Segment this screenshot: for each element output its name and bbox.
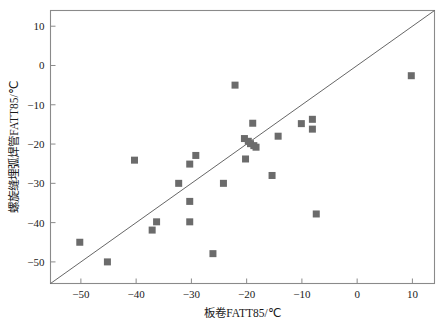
data-point <box>131 157 138 164</box>
data-point <box>186 161 193 168</box>
data-point <box>104 258 111 265</box>
data-point <box>249 120 256 127</box>
data-point <box>192 152 199 159</box>
data-point <box>309 126 316 133</box>
y-axis-tick-label: 10 <box>34 20 46 32</box>
data-point <box>275 133 282 140</box>
data-point <box>220 180 227 187</box>
y-axis-tick-label: 0 <box>39 59 45 71</box>
y-axis-title: 螺旋缝埋弧焊管FATT85/℃ <box>7 81 20 212</box>
data-point <box>408 72 415 79</box>
data-point <box>149 227 156 234</box>
data-point <box>232 82 239 89</box>
data-point <box>253 144 260 151</box>
y-axis-tick-label: −10 <box>27 99 45 111</box>
x-axis-tick-label: 0 <box>354 288 360 300</box>
x-axis-tick-label: −50 <box>72 288 90 300</box>
x-axis-tick-label: −10 <box>293 288 311 300</box>
y-axis-tick-label: −30 <box>27 177 45 189</box>
data-point <box>209 250 216 257</box>
data-point <box>309 116 316 123</box>
data-point <box>298 120 305 127</box>
data-point <box>186 198 193 205</box>
x-axis-tick-label: 10 <box>407 288 419 300</box>
x-axis-tick-label: −40 <box>128 288 146 300</box>
y-axis-tick-label: −50 <box>27 256 45 268</box>
data-point <box>313 210 320 217</box>
y-axis-tick-label: −20 <box>27 138 45 150</box>
data-point <box>76 239 83 246</box>
x-axis-tick-label: −30 <box>183 288 201 300</box>
data-point <box>242 155 249 162</box>
x-axis-tick-label: −20 <box>238 288 256 300</box>
reference-line-y-equals-x <box>51 11 435 284</box>
data-point <box>175 180 182 187</box>
data-point <box>186 218 193 225</box>
data-point <box>269 172 276 179</box>
x-axis-title: 板卷FATT85/℃ <box>204 306 280 319</box>
y-axis-tick-label: −40 <box>27 217 45 229</box>
data-point <box>153 218 160 225</box>
chart-svg: −50−40−30−20−10010100−10−20−30−40−50板卷FA… <box>0 0 446 323</box>
scatter-chart-figure: −50−40−30−20−10010100−10−20−30−40−50板卷FA… <box>0 0 446 323</box>
